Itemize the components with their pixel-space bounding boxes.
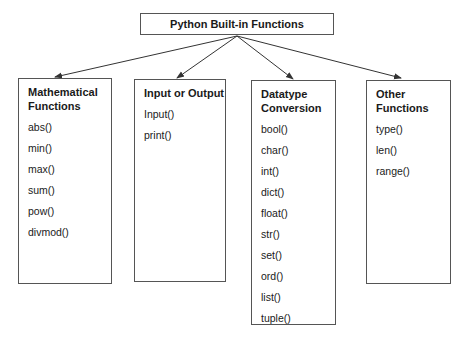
- function-item: tuple(): [261, 311, 335, 332]
- category-datatype-conversion: Datatype Conversion bool() char() int() …: [251, 80, 336, 325]
- root-title: Python Built-in Functions: [170, 18, 304, 30]
- arrow-to-other: [237, 36, 401, 78]
- function-item: float(): [261, 206, 335, 227]
- function-item: divmod(): [28, 225, 111, 246]
- heading-line: Datatype: [261, 87, 335, 101]
- category-heading: Mathematical Functions: [28, 85, 111, 113]
- function-item: list(): [261, 290, 335, 311]
- function-item: range(): [376, 164, 450, 185]
- function-item: len(): [376, 143, 450, 164]
- function-item: int(): [261, 164, 335, 185]
- category-heading: Input or Output: [144, 86, 225, 100]
- function-item: abs(): [28, 120, 111, 141]
- heading-line: Other Functions: [376, 87, 450, 115]
- heading-line: Mathematical: [28, 85, 111, 99]
- function-item: ord(): [261, 269, 335, 290]
- function-item: pow(): [28, 204, 111, 225]
- function-item: sum(): [28, 183, 111, 204]
- function-item: Input(): [144, 107, 225, 128]
- function-item: char(): [261, 143, 335, 164]
- category-heading: Other Functions: [376, 87, 450, 115]
- function-item: print(): [144, 128, 225, 149]
- arrow-to-mathematical: [55, 36, 237, 77]
- function-item: min(): [28, 141, 111, 162]
- function-item: str(): [261, 227, 335, 248]
- heading-line: Functions: [28, 99, 111, 113]
- function-item: max(): [28, 162, 111, 183]
- function-item: bool(): [261, 122, 335, 143]
- arrow-to-datatype: [237, 36, 293, 79]
- function-item: dict(): [261, 185, 335, 206]
- category-mathematical: Mathematical Functions abs() min() max()…: [18, 78, 112, 284]
- heading-line: Conversion: [261, 101, 335, 115]
- root-node: Python Built-in Functions: [140, 13, 334, 35]
- function-item: set(): [261, 248, 335, 269]
- category-heading: Datatype Conversion: [261, 87, 335, 115]
- function-item: type(): [376, 122, 450, 143]
- heading-line: Input or Output: [144, 86, 225, 100]
- category-other-functions: Other Functions type() len() range(): [366, 80, 451, 284]
- category-input-output: Input or Output Input() print(): [134, 79, 226, 282]
